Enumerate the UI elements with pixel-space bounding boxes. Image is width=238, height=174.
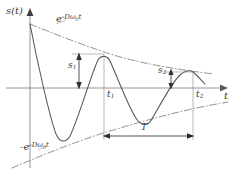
y-axis-label: s(t) [6,6,23,16]
amplitude-1-label: s1 [68,61,76,71]
lower-envelope-exponent: -Dω [29,141,43,149]
amplitude-1-subscript: 1 [73,64,77,70]
x-axis-label: t [224,91,228,101]
upper-envelope-curve [30,24,214,74]
period-arrowhead-right [187,133,195,139]
amplitude-2-measure-group [164,69,193,90]
amplitude-1-arrowhead-up [76,53,82,61]
y-axis-arrowhead [27,8,34,16]
period-arrowhead-left [103,133,111,139]
time-1-subscript: 1 [111,93,115,99]
lower-envelope-base: -e [20,141,29,152]
time-1-label: t1 [107,90,114,100]
period-label: T′ [141,123,149,132]
leader-line-group [38,20,66,150]
time-2-subscript: 2 [200,93,204,99]
period-measure-group [103,133,195,139]
period-prime-symbol: ′ [147,122,149,132]
amplitude-2-subscript: 2 [163,69,167,75]
signal-curve-group [30,24,205,141]
amplitude-2-label: s2 [158,66,166,76]
upper-envelope-exponent-tail: t [79,13,82,21]
lower-envelope-exponent-tail: t [46,141,49,149]
lower-envelope-curve [12,102,228,168]
lower-envelope-label: -e-Dω0t [20,142,49,152]
damped-oscillation-curve [30,24,205,141]
upper-envelope-exponent: -Dω [62,13,76,21]
time-2-label: t2 [196,90,203,100]
amplitude-2-arrowhead-down [168,83,173,90]
upper-envelope-label: e-Dω0t [56,14,81,24]
